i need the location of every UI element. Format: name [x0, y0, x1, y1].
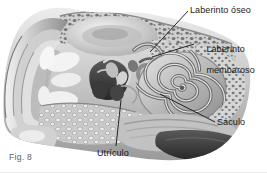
lower-left-bone — [10, 125, 57, 150]
label-utricle: Utrículo — [97, 148, 129, 159]
figure-container: Laberinto óseo Laberinto membaroso Sácul… — [0, 0, 267, 173]
squamous-bone-lobe — [66, 16, 158, 56]
figure-caption: Fig. 8 — [9, 152, 32, 162]
label-membranous-labyrinth: Laberinto membaroso — [196, 33, 255, 86]
label-saccule: Sáculo — [217, 117, 245, 128]
label-membranous-labyrinth-line1: Laberinto — [206, 44, 244, 54]
label-membranous-labyrinth-line2: membaroso — [206, 65, 254, 75]
inner-ear-illustration — [0, 0, 267, 173]
label-bony-labyrinth: Laberinto óseo — [190, 5, 251, 16]
